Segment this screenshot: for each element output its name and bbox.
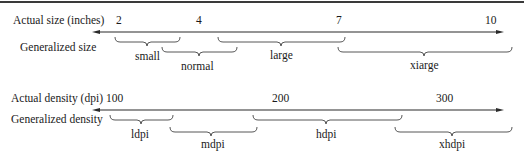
brace-large-icon: [218, 37, 345, 46]
arrow-right-icon: [496, 108, 504, 112]
brace-xlarge-icon: [338, 47, 512, 56]
arrow-right-icon: [496, 30, 504, 34]
brace-hdpi-icon: [253, 115, 402, 124]
arrow-left-icon: [92, 108, 100, 112]
brace-small-icon: [115, 37, 180, 46]
brace-ldpi-icon: [110, 115, 173, 124]
density-axis-arrow: [92, 108, 504, 112]
brace-mdpi-icon: [170, 127, 257, 136]
arrow-left-icon: [92, 30, 100, 34]
size-axis-arrow: [92, 30, 504, 34]
brace-normal-icon: [162, 47, 237, 56]
screen-size-density-diagram: Actual size (inches) Generalized size 2 …: [0, 0, 524, 164]
diagram-lines: [0, 0, 524, 164]
brace-xhdpi-icon: [395, 127, 512, 136]
